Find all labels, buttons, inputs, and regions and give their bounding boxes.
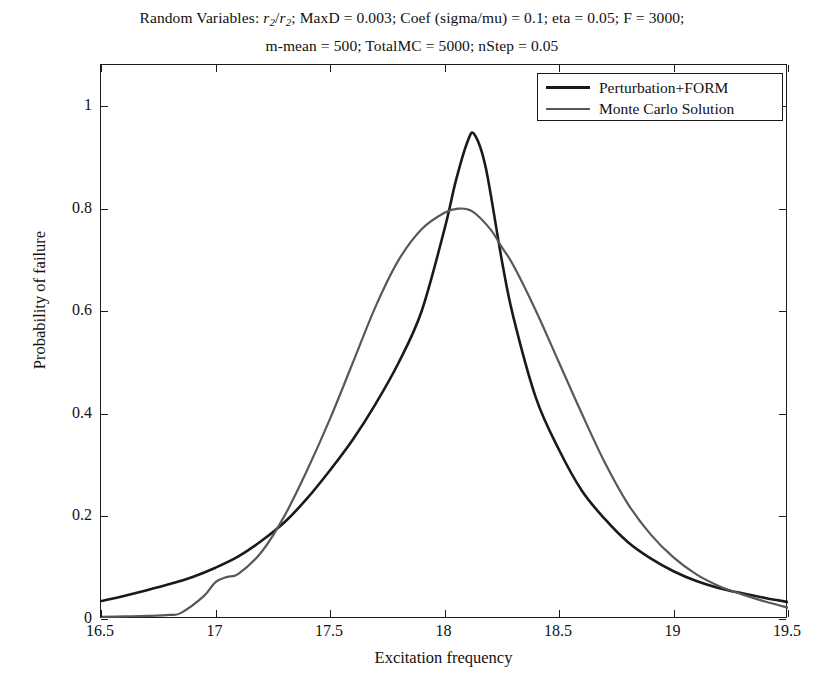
plot-area bbox=[100, 64, 787, 618]
y-tick-label-text: 0 bbox=[84, 609, 92, 627]
y-tick-mark bbox=[779, 516, 786, 517]
x-tick-mark bbox=[674, 610, 675, 617]
figure-root: Random Variables: r2/r2; MaxD = 0.003; C… bbox=[0, 0, 824, 697]
y-tick-label: 0 bbox=[92, 609, 100, 627]
y-tick-label: 0.8 bbox=[92, 199, 112, 217]
series-line-perturbation-form bbox=[101, 133, 788, 603]
series-line-monte-carlo-solution bbox=[101, 208, 788, 617]
chart-title: Random Variables: r2/r2; MaxD = 0.003; C… bbox=[0, 6, 824, 57]
legend-line-swatch-monte-carlo bbox=[546, 108, 590, 110]
x-tick-mark bbox=[559, 65, 560, 72]
y-tick-mark bbox=[779, 311, 786, 312]
legend-item-perturbation-form: Perturbation+FORM bbox=[546, 77, 776, 98]
x-tick-label: 17.5 bbox=[315, 622, 343, 640]
x-tick-mark bbox=[559, 610, 560, 617]
x-tick-mark bbox=[330, 65, 331, 72]
x-tick-mark bbox=[330, 610, 331, 617]
y-tick-mark bbox=[779, 209, 786, 210]
x-tick-label: 18 bbox=[436, 622, 452, 640]
chart-canvas bbox=[101, 65, 788, 619]
y-tick-label: 0.2 bbox=[92, 506, 112, 524]
y-tick-label: 0.6 bbox=[92, 301, 112, 319]
x-tick-label: 17 bbox=[207, 622, 223, 640]
x-tick-label: 19 bbox=[665, 622, 681, 640]
chart-title-line-2: m-mean = 500; TotalMC = 5000; nStep = 0.… bbox=[0, 34, 824, 57]
title-prefix: Random Variables: bbox=[140, 9, 264, 26]
x-tick-mark bbox=[445, 65, 446, 72]
x-tick-mark bbox=[788, 610, 789, 617]
y-tick-label-text: 0.8 bbox=[72, 199, 92, 217]
chart-legend: Perturbation+FORM Monte Carlo Solution bbox=[537, 73, 783, 121]
x-tick-mark bbox=[216, 610, 217, 617]
x-tick-mark bbox=[788, 65, 789, 72]
title-rest: ; MaxD = 0.003; Coef (sigma/mu) = 0.1; e… bbox=[291, 9, 684, 26]
legend-label-monte-carlo: Monte Carlo Solution bbox=[599, 99, 734, 119]
legend-item-monte-carlo: Monte Carlo Solution bbox=[546, 98, 776, 119]
x-tick-mark bbox=[674, 65, 675, 72]
x-axis-title: Excitation frequency bbox=[100, 648, 787, 668]
y-tick-label-text: 0.6 bbox=[72, 301, 92, 319]
x-tick-mark bbox=[445, 610, 446, 617]
y-axis-title: Probability of failure bbox=[30, 190, 50, 410]
y-tick-label-text: 1 bbox=[84, 96, 92, 114]
y-tick-mark bbox=[101, 619, 108, 620]
x-tick-label: 18.5 bbox=[544, 622, 572, 640]
x-tick-mark bbox=[101, 65, 102, 72]
legend-line-swatch-perturbation bbox=[546, 86, 590, 89]
x-tick-label: 19.5 bbox=[773, 622, 801, 640]
y-tick-mark bbox=[779, 414, 786, 415]
legend-label-perturbation: Perturbation+FORM bbox=[599, 78, 728, 98]
title-variable-r2a: r2 bbox=[263, 9, 275, 26]
y-tick-label-text: 0.2 bbox=[72, 506, 92, 524]
y-tick-label: 0.4 bbox=[92, 404, 112, 422]
y-tick-mark bbox=[779, 619, 786, 620]
series-group bbox=[101, 133, 788, 617]
title-variable-r2b: r2 bbox=[280, 9, 292, 26]
x-tick-mark bbox=[216, 65, 217, 72]
chart-title-line-1: Random Variables: r2/r2; MaxD = 0.003; C… bbox=[0, 6, 824, 34]
y-tick-mark bbox=[101, 106, 108, 107]
x-tick-mark bbox=[101, 610, 102, 617]
y-tick-label-text: 0.4 bbox=[72, 404, 92, 422]
y-tick-label: 1 bbox=[92, 96, 100, 114]
